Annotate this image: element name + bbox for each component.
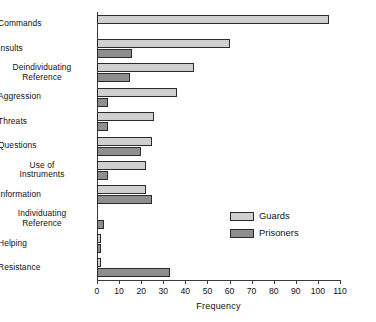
x-tick-label-110: 110 <box>333 286 347 296</box>
bar-prisoners-information <box>97 195 152 204</box>
bar-guards-resistance <box>97 258 101 267</box>
x-tick-label-100: 100 <box>311 286 325 296</box>
plot-area <box>97 12 340 280</box>
bar-guards-aggression <box>97 88 177 97</box>
y-axis-label-questions: Questions <box>0 141 86 151</box>
x-tick-50 <box>207 280 208 284</box>
bar-prisoners-helping <box>97 244 101 253</box>
x-tick-20 <box>141 280 142 284</box>
x-tick-70 <box>252 280 253 284</box>
y-axis-label-helping: Helping <box>0 239 86 249</box>
legend: Guards Prisoners <box>230 209 299 243</box>
x-tick-90 <box>296 280 297 284</box>
legend-label-guards: Guards <box>259 211 290 221</box>
bar-guards-deindividuating-reference <box>97 63 194 72</box>
x-tick-60 <box>230 280 231 284</box>
bar-prisoners-threats <box>97 122 108 131</box>
legend-swatch-prisoners-icon <box>230 229 254 238</box>
y-axis-label-deindividuating-reference: Deindividuating Reference <box>0 63 86 82</box>
bar-prisoners-aggression <box>97 98 108 107</box>
legend-label-prisoners: Prisoners <box>259 228 299 238</box>
y-axis-label-commands: Commands <box>0 19 86 29</box>
bar-prisoners-individuating-reference <box>97 220 104 229</box>
x-tick-0 <box>97 280 98 284</box>
y-axis-label-information: Information <box>0 190 86 200</box>
x-tick-label-90: 90 <box>291 286 301 296</box>
x-tick-80 <box>274 280 275 284</box>
y-axis-category-labels: CommandsInsultsDeindividuating Reference… <box>0 12 92 280</box>
bar-prisoners-insults <box>97 49 132 58</box>
x-tick-label-70: 70 <box>247 286 257 296</box>
bar-guards-information <box>97 185 146 194</box>
bar-guards-insults <box>97 39 230 48</box>
bar-guards-commands <box>97 15 329 24</box>
bar-guards-helping <box>97 234 101 243</box>
x-tick-label-80: 80 <box>269 286 279 296</box>
legend-swatch-guards-icon <box>230 212 254 221</box>
x-tick-30 <box>163 280 164 284</box>
y-axis-label-threats: Threats <box>0 117 86 127</box>
bar-guards-questions <box>97 137 152 146</box>
legend-item-guards: Guards <box>230 209 299 223</box>
bar-chart: CommandsInsultsDeindividuating Reference… <box>0 0 376 322</box>
bar-prisoners-use-of-instruments <box>97 171 108 180</box>
x-tick-label-0: 0 <box>95 286 100 296</box>
x-tick-label-50: 50 <box>203 286 213 296</box>
x-tick-label-30: 30 <box>158 286 168 296</box>
bar-prisoners-resistance <box>97 268 170 277</box>
y-axis-label-use-of-instruments: Use of Instruments <box>0 161 86 180</box>
bar-guards-threats <box>97 112 154 121</box>
x-tick-10 <box>119 280 120 284</box>
y-axis-label-resistance: Resistance <box>0 263 86 273</box>
legend-item-prisoners: Prisoners <box>230 226 299 240</box>
y-axis-label-insults: Insults <box>0 44 86 54</box>
x-tick-110 <box>340 280 341 284</box>
x-tick-label-10: 10 <box>114 286 124 296</box>
x-tick-100 <box>318 280 319 284</box>
y-axis-label-aggression: Aggression <box>0 92 86 102</box>
x-tick-40 <box>185 280 186 284</box>
x-tick-label-20: 20 <box>136 286 146 296</box>
x-axis-line <box>97 280 340 281</box>
x-tick-label-60: 60 <box>225 286 235 296</box>
bar-prisoners-questions <box>97 147 141 156</box>
bar-prisoners-deindividuating-reference <box>97 73 130 82</box>
y-axis-label-individuating-reference: Individuating Reference <box>0 209 86 228</box>
bar-guards-use-of-instruments <box>97 161 146 170</box>
x-axis-title: Frequency <box>97 301 340 311</box>
x-tick-label-40: 40 <box>181 286 191 296</box>
